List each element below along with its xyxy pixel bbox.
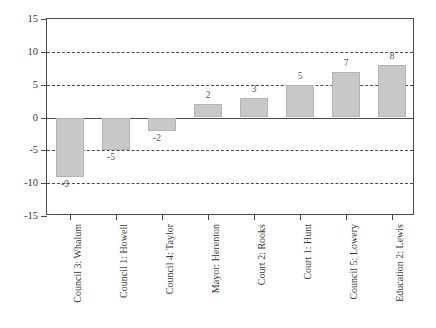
bar-value-label: 2 (206, 91, 211, 101)
y-axis-tick (41, 216, 47, 217)
bar-value-label: -5 (107, 153, 115, 163)
y-axis-tick-label: -10 (24, 178, 38, 189)
x-axis-category-label: Council 3: Whalum (73, 224, 83, 303)
y-axis-tick-label: -5 (29, 145, 38, 156)
bar-value-label: 5 (298, 72, 303, 82)
bar[interactable] (148, 118, 176, 131)
y-axis-tick-label: 0 (33, 112, 38, 123)
y-axis-tick-label: 10 (28, 47, 39, 58)
gridline (47, 150, 413, 151)
bar[interactable] (240, 98, 268, 118)
bar-value-label: -2 (153, 134, 161, 144)
x-axis-labels: Council 3: WhalumCouncil 1: HowellCounci… (46, 224, 414, 328)
x-axis-category-label: Council 5: Lowery (349, 224, 359, 300)
bar[interactable] (332, 72, 360, 118)
x-axis-tick (116, 214, 117, 220)
y-axis-tick-label: 15 (28, 14, 39, 25)
bar-value-label: 8 (390, 52, 395, 62)
x-axis-tick (392, 214, 393, 220)
plot-area: 151050-5-10-15 -9-5-223578 (46, 18, 414, 215)
x-axis-category-label: Mayor: Herenton (211, 224, 221, 293)
x-axis-tick (300, 214, 301, 220)
bar[interactable] (56, 118, 84, 177)
x-axis-tick (70, 214, 71, 220)
x-axis-category-label: Council 1: Howell (119, 224, 129, 298)
bar[interactable] (102, 118, 130, 151)
x-axis-category-label: Education 2: Lewis (395, 224, 405, 302)
x-axis-category-label: Council 4: Taylor (165, 224, 175, 294)
bar[interactable] (378, 65, 406, 118)
bar[interactable] (286, 85, 314, 118)
y-axis-tick (41, 150, 47, 151)
y-axis-tick (41, 183, 47, 184)
y-axis-tick (41, 19, 47, 20)
gridline (47, 52, 413, 53)
bar-value-label: 3 (252, 85, 257, 95)
x-axis-tick (254, 214, 255, 220)
y-axis-tick (41, 85, 47, 86)
y-axis-tick (41, 52, 47, 53)
bar[interactable] (194, 104, 222, 117)
y-axis-tick (41, 118, 47, 119)
x-axis-category-label: Court 2: Rooks (257, 224, 267, 285)
x-axis-tick (346, 214, 347, 220)
y-axis-tick-label: -15 (24, 211, 38, 222)
y-axis-tick-label: 5 (33, 79, 38, 90)
gridline (47, 183, 413, 184)
bar-chart: 151050-5-10-15 -9-5-223578 Council 3: Wh… (0, 0, 436, 328)
bar-value-label: -9 (61, 180, 69, 190)
x-axis-tick (208, 214, 209, 220)
x-axis-tick (162, 214, 163, 220)
bar-value-label: 7 (344, 59, 349, 69)
x-axis-category-label: Court 1: Hunt (303, 224, 313, 280)
